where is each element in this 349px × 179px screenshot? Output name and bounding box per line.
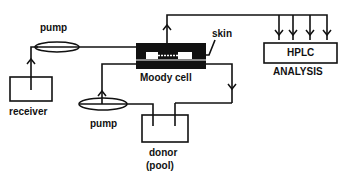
upper-pump-label: pump — [40, 23, 67, 33]
donor-box — [142, 115, 188, 142]
donor-label: donor — [149, 148, 177, 158]
moody-cell-icon — [136, 43, 206, 69]
skin-label: skin — [212, 29, 232, 39]
receiver-label: receiver — [9, 107, 47, 117]
cell-to-donor-line — [203, 64, 232, 103]
hplc-label: HPLC — [287, 48, 314, 58]
donor-sublabel: (pool) — [146, 161, 174, 171]
receiver-to-pump-line — [31, 47, 38, 90]
cell-to-hplc-line — [167, 15, 327, 44]
moody-cell-label: Moody cell — [140, 73, 192, 83]
hplc-sublabel: ANALYSIS — [273, 67, 323, 77]
lower-pump-label: pump — [90, 119, 117, 129]
